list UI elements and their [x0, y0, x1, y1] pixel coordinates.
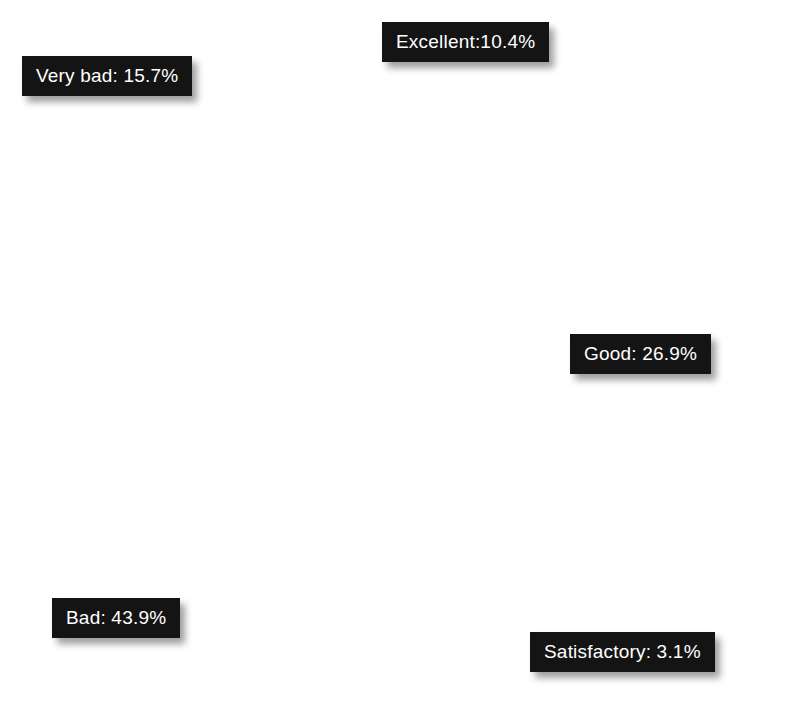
- slice-label-bad: Bad: 43.9%: [52, 598, 180, 638]
- slice-label-satisfactory: Satisfactory: 3.1%: [530, 632, 715, 672]
- slice-label-excellent: Excellent:10.4%: [382, 22, 549, 62]
- slice-label-very-bad: Very bad: 15.7%: [22, 56, 192, 96]
- pie-chart: Excellent:10.4% Good: 26.9% Satisfactory…: [0, 0, 786, 728]
- slice-label-good: Good: 26.9%: [570, 334, 711, 374]
